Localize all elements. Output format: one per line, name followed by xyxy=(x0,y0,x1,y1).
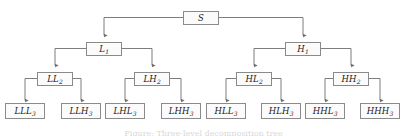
edge-h1-to-hh2 xyxy=(321,49,351,66)
edge-hl2-to-hll3 xyxy=(226,79,236,101)
node-s[interactable]: S xyxy=(183,11,219,25)
node-lh2[interactable]: LH2 xyxy=(134,72,170,86)
node-lll3[interactable]: LLL3 xyxy=(5,103,45,119)
edge-s-to-l1 xyxy=(104,18,183,36)
node-hh2[interactable]: HH2 xyxy=(333,72,369,86)
edge-ll2-to-lll3 xyxy=(25,79,37,101)
node-l1[interactable]: L1 xyxy=(86,42,122,56)
node-ll2-label: LL2 xyxy=(47,75,62,84)
node-lh2-label: LH2 xyxy=(143,75,160,84)
edge-hh2-to-hhh3 xyxy=(369,79,380,101)
node-h1-label: H1 xyxy=(297,45,308,54)
node-hl2[interactable]: HL2 xyxy=(236,72,272,86)
node-lhh3-label: LHH3 xyxy=(169,107,194,116)
edge-lh2-to-lhh3 xyxy=(170,79,181,101)
figure-caption: Figure: Three-level decomposition tree xyxy=(0,128,407,136)
node-ll2[interactable]: LL2 xyxy=(37,72,73,86)
node-hhh3[interactable]: HHH3 xyxy=(360,103,400,119)
node-lhl3[interactable]: LHL3 xyxy=(105,103,145,119)
edge-s-to-h1 xyxy=(219,18,303,36)
decomposition-tree-diagram: S L1 H1 LL2 LH2 HL2 HH2 LLL3 xyxy=(0,0,407,136)
node-hll3-label: HLL3 xyxy=(215,107,238,116)
node-l1-label: L1 xyxy=(99,45,109,54)
node-hll3[interactable]: HLL3 xyxy=(206,103,246,119)
node-lll3-label: LLL3 xyxy=(14,107,35,116)
node-hlh3-label: HLH3 xyxy=(269,107,294,116)
node-h1[interactable]: H1 xyxy=(285,42,321,56)
edge-hl2-to-hlh3 xyxy=(272,79,281,101)
node-hlh3[interactable]: HLH3 xyxy=(261,103,301,119)
edge-h1-to-hl2 xyxy=(254,49,285,66)
edge-hh2-to-hhl3 xyxy=(325,79,333,101)
edge-l1-to-ll2 xyxy=(55,49,86,66)
node-hl2-label: HL2 xyxy=(245,75,262,84)
node-hh2-label: HH2 xyxy=(342,75,361,84)
node-hhl3-label: HHL3 xyxy=(313,107,338,116)
node-lhh3[interactable]: LHH3 xyxy=(161,103,201,119)
edge-lh2-to-lhl3 xyxy=(125,79,134,101)
node-hhl3[interactable]: HHL3 xyxy=(305,103,345,119)
edge-ll2-to-llh3 xyxy=(73,79,81,101)
node-hhh3-label: HHH3 xyxy=(367,107,393,116)
node-s-label: S xyxy=(198,14,204,23)
node-llh3-label: LLH3 xyxy=(70,107,93,116)
edge-l1-to-lh2 xyxy=(122,49,152,66)
node-llh3[interactable]: LLH3 xyxy=(61,103,101,119)
node-lhl3-label: LHL3 xyxy=(114,107,137,116)
